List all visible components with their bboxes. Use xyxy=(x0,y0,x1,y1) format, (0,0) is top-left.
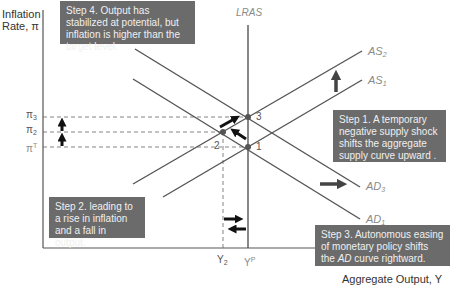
point-1 xyxy=(245,144,251,150)
step-2-box: Step 2. leading to a rise in inflation a… xyxy=(49,197,145,238)
y-axis-label: Inflation Rate, π xyxy=(2,8,38,32)
step-1-box: Step 1. A temporary negative supply shoc… xyxy=(333,110,446,162)
point-3-label: 3 xyxy=(256,111,262,123)
step-4-box: Step 4. Output has stabilized at potenti… xyxy=(60,1,195,44)
ad3-label: AD3 xyxy=(366,180,385,196)
step-3-box: Step 3. Autonomous easing of monetary po… xyxy=(315,225,450,266)
as1-label: AS1 xyxy=(368,74,387,90)
point-3 xyxy=(245,114,251,120)
arrow-1-to-2 xyxy=(234,131,246,139)
pi3-tick-label: π3 xyxy=(26,109,37,124)
as2-label: AS2 xyxy=(368,45,387,61)
point-1-label: 1 xyxy=(256,141,262,153)
point-2-label: 2 xyxy=(214,140,220,152)
lras-label: LRAS xyxy=(236,7,262,19)
y2-tick-label: Y2 xyxy=(217,254,228,269)
yp-tick-label: YP xyxy=(244,254,255,269)
point-2 xyxy=(220,129,226,135)
pi2-tick-label: π2 xyxy=(26,124,37,139)
piT-tick-label: πT xyxy=(26,140,37,155)
x-axis-label: Aggregate Output, Y xyxy=(342,273,442,285)
